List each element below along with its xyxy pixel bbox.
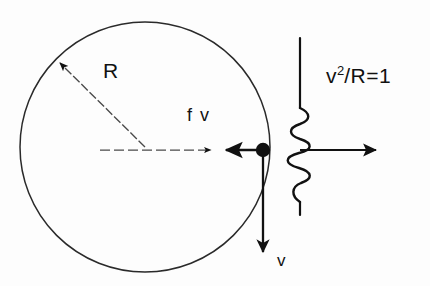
friction-force-label: f v — [187, 106, 211, 124]
physics-diagram — [0, 0, 430, 286]
equation-base: v — [326, 64, 337, 87]
velocity-label: v — [277, 252, 286, 269]
diagram-canvas: R f v v v2/R=1 Circular motion free-body… — [0, 0, 430, 286]
equation-label: v2/R=1 — [326, 64, 391, 86]
spring-squiggle — [288, 108, 310, 202]
radius-label: R — [103, 60, 119, 81]
particle-dot — [256, 143, 270, 157]
equation-rest: /R=1 — [344, 64, 391, 87]
